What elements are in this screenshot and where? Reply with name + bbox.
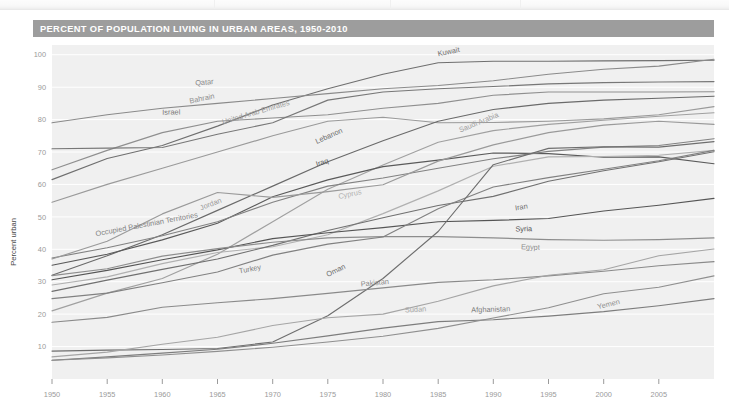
x-tick-label: 1960 [154, 390, 170, 399]
x-tick-label: 1950 [44, 390, 60, 399]
series-label-qatar: Qatar [195, 77, 215, 88]
y-tick-label: 90 [38, 83, 46, 92]
series-label-syria: Syria [515, 224, 533, 233]
y-tick-label: 20 [38, 310, 46, 319]
y-tick-label: 100 [34, 50, 46, 59]
series-label-sudan: Sudan [405, 304, 427, 314]
urban-population-line-chart: 102030405060708090100 195019551960196519… [0, 37, 729, 418]
y-tick-label: 30 [38, 277, 46, 286]
chart-container: 102030405060708090100 195019551960196519… [0, 37, 729, 418]
y-tick-label: 60 [38, 180, 46, 189]
x-tick-label: 1970 [264, 390, 280, 399]
y-axis: 102030405060708090100 [34, 50, 46, 351]
chart-title-bar: PERCENT OF POPULATION LIVING IN URBAN AR… [33, 20, 714, 37]
y-tick-label: 40 [38, 245, 46, 254]
y-tick-label: 80 [38, 115, 46, 124]
x-tick-label: 2000 [595, 390, 611, 399]
x-tick-label: 1965 [209, 390, 225, 399]
series-label-israel: Israel [162, 107, 181, 116]
x-tick-label: 1975 [320, 390, 336, 399]
y-tick-label: 70 [38, 148, 46, 157]
x-tick-label: 2005 [651, 390, 667, 399]
x-tick-label: 1955 [99, 390, 115, 399]
y-tick-label: 10 [38, 342, 46, 351]
y-axis-title: Percent urban [9, 218, 18, 266]
plot-background [52, 45, 714, 379]
x-tick-label: 1980 [375, 390, 391, 399]
x-tick-label: 1990 [485, 390, 501, 399]
x-tick-label: 1985 [430, 390, 446, 399]
series-label-egypt: Egypt [521, 242, 540, 252]
y-tick-label: 50 [38, 213, 46, 222]
x-tick-label: 1995 [540, 390, 556, 399]
page-title: PERCENT OF POPULATION LIVING IN URBAN AR… [33, 24, 348, 34]
truncated-toolbar-strip [0, 0, 729, 10]
x-axis: 1950195519601965197019751980198519901995… [44, 379, 667, 399]
series-label-afghanistan: Afghanistan [471, 304, 510, 314]
